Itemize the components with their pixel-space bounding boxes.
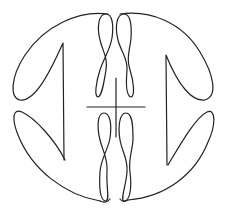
drawing-strokes <box>13 13 214 202</box>
upper-right-figure-eight <box>116 14 133 97</box>
lower-left-figure-eight <box>98 113 111 201</box>
lower-right-lobe <box>128 111 214 200</box>
lower-right-figure-eight <box>119 113 133 201</box>
line-drawing <box>0 0 225 213</box>
upper-left-lobe <box>13 13 108 160</box>
upper-left-figure-eight <box>96 14 113 97</box>
drawing-svg <box>0 0 225 213</box>
lower-left-lobe <box>14 111 100 201</box>
